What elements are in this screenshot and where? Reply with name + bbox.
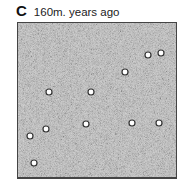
panel-caption: 160m. years ago — [34, 6, 120, 18]
data-point — [83, 121, 89, 127]
data-point — [158, 50, 164, 56]
data-point — [31, 160, 37, 166]
data-point — [43, 126, 49, 132]
data-point — [129, 120, 135, 126]
data-point — [122, 69, 128, 75]
dot-field — [18, 23, 177, 179]
data-point — [27, 133, 33, 139]
panel-letter: C — [16, 2, 27, 19]
data-point — [156, 120, 162, 126]
panel-label: C 160m. years ago — [16, 2, 120, 19]
data-point — [46, 89, 52, 95]
data-point — [88, 89, 94, 95]
stippled-panel — [17, 22, 177, 179]
data-point — [145, 52, 151, 58]
